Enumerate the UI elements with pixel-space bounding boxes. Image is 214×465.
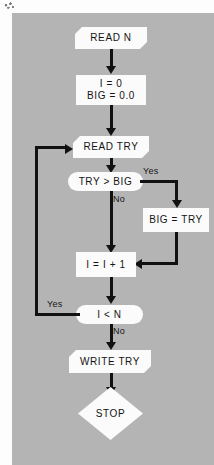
arrowhead-readtry [106, 128, 116, 136]
edge-compare-yes-h [140, 180, 178, 183]
arrowhead-readtry-left [65, 144, 73, 154]
node-stop-label: STOP [96, 408, 125, 420]
node-assign-big-label: BIG = TRY [149, 214, 203, 226]
edge-label-loop-yes: Yes [47, 299, 63, 309]
node-stop: STOP [78, 387, 143, 440]
node-init-line1: I = 0 [100, 78, 123, 90]
edge-loop-yes-return [35, 146, 67, 149]
diagram-panel: READ N I = 0 BIG = 0.0 READ TRY TRY > BI… [12, 13, 214, 465]
node-loop-test: I < N [76, 305, 143, 324]
edge-assignbig-down [175, 232, 178, 265]
arrowhead-writetry [106, 342, 116, 350]
edge-assignbig-left [142, 262, 177, 265]
scan-artifact-icon [3, 1, 15, 10]
node-increment: I = I + 1 [76, 252, 136, 277]
node-increment-label: I = I + 1 [86, 259, 125, 271]
flowchart-figure: READ N I = 0 BIG = 0.0 READ TRY TRY > BI… [0, 0, 214, 465]
edge-loop-yes-v [35, 146, 38, 315]
edge-compare-no [110, 191, 113, 250]
edge-label-compare-yes: Yes [143, 166, 159, 176]
node-read-try-label: READ TRY [83, 141, 138, 153]
node-assign-big: BIG = TRY [143, 208, 209, 232]
edge-init-readtry [110, 105, 113, 130]
node-read-try: READ TRY [73, 136, 149, 158]
node-compare: TRY > BIG [68, 172, 143, 191]
node-read-n: READ N [75, 27, 147, 49]
edge-loop-yes-h [35, 313, 80, 316]
node-read-n-label: READ N [90, 32, 131, 44]
node-compare-label: TRY > BIG [79, 176, 133, 188]
node-write-try-label: WRITE TRY [80, 356, 140, 368]
edge-label-compare-no: No [113, 194, 125, 204]
arrowhead-looptest [106, 296, 116, 304]
arrowhead-init [106, 66, 116, 74]
node-write-try: WRITE TRY [69, 350, 151, 373]
arrowhead-assign-big [172, 200, 182, 208]
edge-compare-yes-v [175, 180, 178, 202]
edge-label-loop-no: No [113, 326, 125, 336]
node-init: I = 0 BIG = 0.0 [76, 75, 146, 105]
node-loop-test-label: I < N [97, 309, 121, 321]
node-init-line2: BIG = 0.0 [87, 90, 135, 102]
